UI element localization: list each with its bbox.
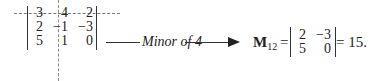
matrix-cell: −1 [52,20,68,34]
matrix-cell: −3 [77,20,93,34]
matrix-cell: 3 [27,6,43,20]
matrix-cell: 0 [77,34,93,48]
minor-subscript: 12 [267,41,277,52]
minor-cell: 5 [290,42,306,56]
minor-cell: −3 [315,28,331,42]
minor-cell: 2 [290,28,306,42]
matrix-cell: 4 [52,6,68,20]
determinant-3x3: 3 4 2 2 −1 −3 5 1 0 [27,6,97,50]
minor-cell: 0 [315,42,331,56]
matrix-cell: 2 [27,20,43,34]
matrix-cell: 2 [77,6,93,20]
annotation-leader-line [106,42,140,43]
determinant-2x2: 2 −3 5 0 [290,27,336,57]
equals-sign: = [280,34,288,51]
minor-result: = 15. [336,34,367,51]
arrow-right-icon [228,37,240,47]
arrow-line [185,42,231,43]
matrix-cell: 1 [52,34,68,48]
minor-symbol: M12 [253,34,277,52]
matrix-cell: 5 [27,34,43,48]
